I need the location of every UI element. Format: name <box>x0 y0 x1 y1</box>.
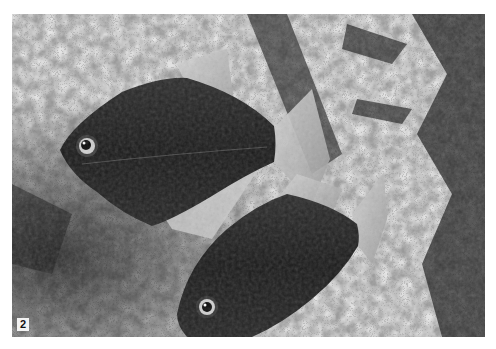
photo-scene <box>12 14 485 337</box>
fish-photograph <box>12 14 485 337</box>
figure-number-label: 2 <box>17 318 29 331</box>
